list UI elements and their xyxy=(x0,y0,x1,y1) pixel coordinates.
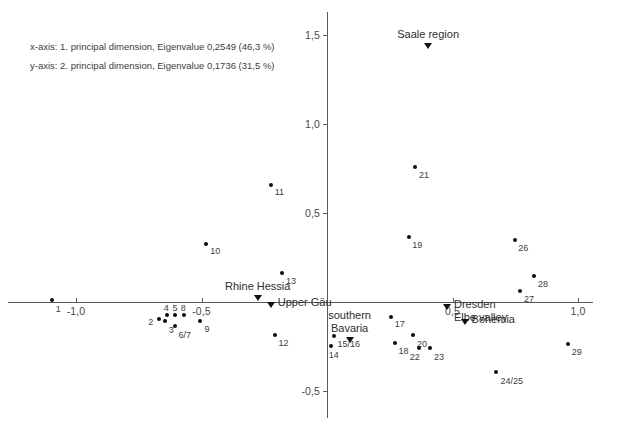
data-point xyxy=(393,341,397,345)
eigenvalue-annotation: x-axis: 1. principal dimension, Eigenval… xyxy=(30,38,275,75)
data-point xyxy=(280,271,284,275)
data-point xyxy=(198,319,202,323)
data-point-label: 12 xyxy=(279,338,289,348)
region-marker-triangle-down-icon xyxy=(443,304,451,310)
region-marker-triangle-down-icon xyxy=(461,319,469,325)
data-point xyxy=(411,333,415,337)
x-tick-label: -1,0 xyxy=(67,305,86,317)
region-label: Rhine Hessia xyxy=(225,280,290,293)
data-point xyxy=(173,313,177,317)
data-point xyxy=(50,298,54,302)
data-point-label: 1 xyxy=(56,304,61,314)
data-point-label: 2 xyxy=(148,317,153,327)
data-point xyxy=(269,183,273,187)
x-tick-label: 1,0 xyxy=(571,305,586,317)
data-point-label: 29 xyxy=(572,347,582,357)
data-point-label: 14 xyxy=(329,350,339,360)
x-tick-mark xyxy=(76,298,77,302)
y-tick-mark xyxy=(323,213,327,214)
data-point-label: 23 xyxy=(434,352,444,362)
data-point xyxy=(566,342,570,346)
x-tick-mark xyxy=(578,298,579,302)
data-point xyxy=(204,242,208,246)
y-tick-label: 1,5 xyxy=(294,29,320,41)
data-point-label: 22 xyxy=(410,352,420,362)
data-point xyxy=(532,274,536,278)
annotation-x-axis: x-axis: 1. principal dimension, Eigenval… xyxy=(30,38,275,57)
data-point xyxy=(173,324,177,328)
data-point-label: 26 xyxy=(518,243,528,253)
data-point-label: 19 xyxy=(412,240,422,250)
data-point xyxy=(163,319,167,323)
region-label: Saale region xyxy=(397,28,459,41)
y-tick-label: 1,0 xyxy=(294,118,320,130)
data-point-label: 11 xyxy=(275,187,284,197)
data-point-label: 5 xyxy=(172,303,177,313)
data-point-label: 24/25 xyxy=(500,376,523,386)
y-tick-label: -0,5 xyxy=(294,385,320,397)
region-marker-triangle-down-icon xyxy=(424,43,432,49)
scatter-plot-canvas: x-axis: 1. principal dimension, Eigenval… xyxy=(0,0,627,430)
region-marker-triangle-down-icon xyxy=(267,302,275,308)
x-tick-label: -0,5 xyxy=(192,305,211,317)
annotation-y-axis: y-axis: 2. principal dimension, Eigenval… xyxy=(30,57,275,76)
region-marker-triangle-down-icon xyxy=(346,337,354,343)
data-point-label: 17 xyxy=(395,319,405,329)
data-point xyxy=(413,165,417,169)
data-point-label: 8 xyxy=(181,303,186,313)
data-point xyxy=(157,317,161,321)
y-tick-mark xyxy=(323,35,327,36)
region-marker-triangle-down-icon xyxy=(254,295,262,301)
data-point xyxy=(428,346,432,350)
data-point xyxy=(165,313,169,317)
data-point xyxy=(182,313,186,317)
data-point xyxy=(518,289,522,293)
data-point-label: 21 xyxy=(419,170,429,180)
data-point xyxy=(494,370,498,374)
data-point-label: 4 xyxy=(164,303,169,313)
data-point xyxy=(513,238,517,242)
data-point xyxy=(329,344,333,348)
data-point xyxy=(417,346,421,350)
region-label: Bohemia xyxy=(472,313,515,326)
region-label: southernBavaria xyxy=(328,309,371,335)
x-tick-mark xyxy=(202,298,203,302)
data-point-label: 6/7 xyxy=(178,330,191,340)
y-tick-mark xyxy=(323,124,327,125)
data-point-label: 9 xyxy=(204,324,209,334)
y-tick-label: 0,5 xyxy=(294,207,320,219)
data-point-label: 10 xyxy=(210,246,220,256)
y-tick-mark xyxy=(323,391,327,392)
data-point xyxy=(273,333,277,337)
data-point-label: 28 xyxy=(538,279,548,289)
data-point xyxy=(389,315,393,319)
data-point-label: 18 xyxy=(399,346,409,356)
region-label: Upper Gäu xyxy=(278,296,332,309)
data-point xyxy=(407,235,411,239)
data-point-label: 27 xyxy=(524,294,534,304)
